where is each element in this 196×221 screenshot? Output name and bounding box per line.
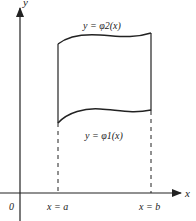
y-axis-label: y xyxy=(22,0,28,8)
upper-curve-label: y = φ2(x) xyxy=(82,20,121,32)
lower-curve xyxy=(58,109,151,123)
lower-curve-label: y = φ1(x) xyxy=(84,130,123,142)
upper-curve xyxy=(58,33,151,44)
bound-b-label: x = b xyxy=(138,201,160,212)
origin-label: 0 xyxy=(9,201,14,212)
region-diagram: y x 0 y = φ2(x) y = φ1(x) x = a x = b xyxy=(0,0,196,221)
x-axis-label: x xyxy=(184,187,190,199)
bound-a-label: x = a xyxy=(46,201,68,212)
